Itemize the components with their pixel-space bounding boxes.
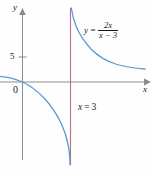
equation-equals-sign: =	[91, 26, 96, 35]
asymptote-label: x=3	[78, 103, 96, 113]
x-axis-label: x	[143, 85, 147, 94]
graph-figure: y x 5 0 x=3 y = 2x x − 3	[0, 0, 154, 172]
function-equation-label: y = 2x x − 3	[84, 21, 118, 40]
origin-label: 0	[13, 85, 18, 95]
graph-canvas	[0, 0, 154, 172]
asymptote-label-value: 3	[92, 102, 97, 112]
equation-lhs: y	[84, 26, 88, 35]
equation-numerator: 2x	[103, 21, 113, 30]
asymptote-label-variable: x	[78, 102, 82, 112]
equation-fraction: 2x x − 3	[98, 21, 118, 40]
asymptote-label-equals: =	[84, 102, 89, 112]
y-axis	[19, 8, 26, 160]
curve-left-branch	[0, 76, 70, 165]
equation-denominator: x − 3	[98, 31, 118, 40]
y-axis-label: y	[13, 3, 17, 12]
y-tick-label-5: 5	[10, 52, 15, 61]
